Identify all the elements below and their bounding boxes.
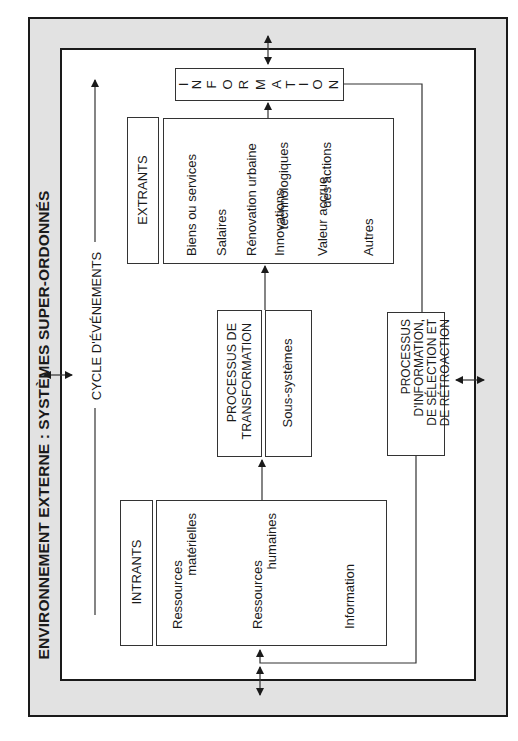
connectors	[0, 0, 518, 741]
